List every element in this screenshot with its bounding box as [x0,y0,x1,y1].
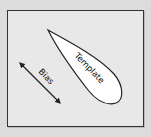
diagram-canvas: Template Bias [0,0,151,137]
bias-label: Bias [37,66,57,86]
